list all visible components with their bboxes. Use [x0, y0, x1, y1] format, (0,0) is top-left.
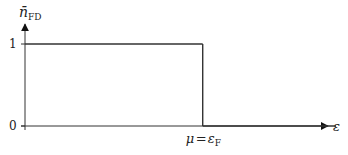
- y-tick-label-1: 1: [9, 37, 17, 51]
- y-axis-label-subscript: FD: [28, 12, 41, 22]
- x-tick-equals: =: [196, 131, 207, 146]
- x-tick-label-mu: μ = ε F: [186, 131, 221, 148]
- y-axis-label: n̄: [19, 4, 28, 20]
- y-tick-label-0: 0: [9, 119, 17, 133]
- series-group: [25, 44, 336, 126]
- fermi-dirac-chart: n̄ FD ε 0 1 μ = ε F: [0, 0, 348, 155]
- x-tick-fermi-subscript: F: [215, 138, 221, 148]
- x-tick-epsilon: ε: [208, 131, 215, 146]
- x-tick-mu-symbol: μ: [186, 131, 194, 146]
